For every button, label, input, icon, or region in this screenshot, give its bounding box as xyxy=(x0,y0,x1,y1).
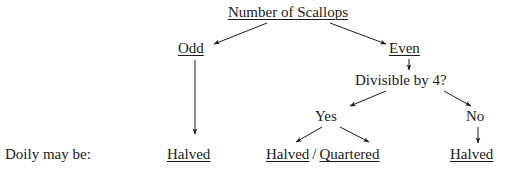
node-no: No xyxy=(466,108,484,124)
result-yes-halved-or-quartered: Halved/Quartered xyxy=(266,146,379,162)
edge-yes-to-quartered xyxy=(340,127,369,142)
row-label-doily-may-be: Doily may be: xyxy=(5,146,91,162)
node-divisible-by-4: Divisible by 4? xyxy=(355,72,447,88)
result-separator-slash: / xyxy=(309,146,319,162)
edge-divisible-to-no xyxy=(444,91,471,106)
result-quartered-label: Quartered xyxy=(320,146,380,162)
result-odd-halved: Halved xyxy=(167,146,210,162)
edge-root-to-even xyxy=(330,23,386,44)
node-even: Even xyxy=(389,40,420,56)
node-odd: Odd xyxy=(178,40,204,56)
edge-root-to-odd xyxy=(214,23,267,44)
edge-yes-to-halved xyxy=(296,127,322,142)
result-halved-label: Halved xyxy=(266,146,309,162)
edge-divisible-to-yes xyxy=(350,91,386,106)
node-yes: Yes xyxy=(315,108,337,124)
decision-tree-diagram: Number of Scallops Odd Even Divisible by… xyxy=(0,0,522,174)
result-no-halved: Halved xyxy=(450,146,493,162)
node-number-of-scallops: Number of Scallops xyxy=(228,4,348,20)
